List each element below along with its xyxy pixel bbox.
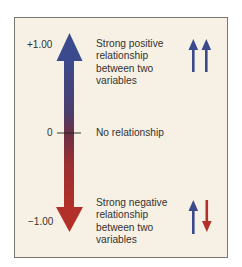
positive-description: Strong positive relationship between two… bbox=[96, 38, 180, 87]
negative-relationship-icon bbox=[189, 200, 212, 234]
arrow-up-icon bbox=[57, 33, 83, 61]
scale-label-top: +1.00 bbox=[27, 39, 52, 51]
no-relationship-description: No relationship bbox=[96, 127, 186, 139]
scale-label-bottom: −1.00 bbox=[28, 216, 53, 228]
scale-label-zero: 0 bbox=[47, 127, 53, 139]
positive-relationship-icon bbox=[189, 39, 212, 72]
negative-description: Strong negative relationship between two… bbox=[96, 197, 180, 246]
arrow-down-icon bbox=[56, 207, 83, 232]
